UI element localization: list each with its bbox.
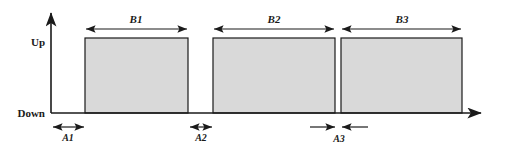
gap-dimension-a1: A1 bbox=[53, 127, 84, 143]
pulse-bar-b1 bbox=[85, 38, 188, 113]
span-label-b1: B1 bbox=[129, 13, 143, 25]
pulse-bar-b2 bbox=[213, 38, 335, 113]
diagram-canvas: Up Down B1 B2 B3 A1 A2 bbox=[0, 0, 508, 155]
span-label-b2: B2 bbox=[267, 13, 281, 25]
gap-dimension-a2: A2 bbox=[190, 127, 212, 143]
gap-dimension-a3: A3 bbox=[310, 127, 368, 144]
span-label-b3: B3 bbox=[395, 13, 409, 25]
pulse-timing-diagram: Up Down B1 B2 B3 A1 A2 bbox=[0, 0, 508, 155]
axis-label-down: Down bbox=[17, 107, 45, 119]
span-dimension-b1: B1 bbox=[86, 13, 187, 29]
pulse-bar-b3 bbox=[341, 38, 462, 113]
gap-label-a1: A1 bbox=[61, 132, 74, 143]
span-dimension-b2: B2 bbox=[214, 13, 334, 29]
gap-label-a2: A2 bbox=[194, 132, 207, 143]
span-dimension-b3: B3 bbox=[342, 13, 461, 29]
gap-label-a3: A3 bbox=[332, 133, 345, 144]
pulse-bars-group bbox=[85, 38, 462, 113]
axis-label-up: Up bbox=[31, 36, 45, 48]
